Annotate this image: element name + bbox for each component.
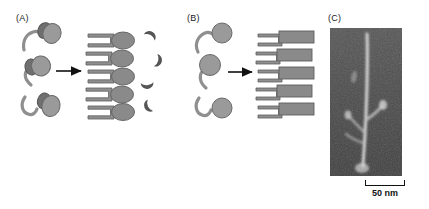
oval-head: [200, 55, 221, 76]
product-unit: [258, 31, 314, 46]
electron-micrograph-image: [330, 28, 402, 176]
reactant-molecule: [24, 55, 52, 85]
product-unit: [86, 86, 134, 103]
bracket-shape: [88, 34, 114, 47]
panel-b: (B): [178, 0, 318, 209]
molecule-tail: [22, 97, 37, 115]
reactant-molecule: [200, 55, 221, 89]
panel-a: (A): [0, 0, 178, 209]
rectangle-head: [279, 31, 314, 43]
crescent-shape: [143, 30, 156, 43]
rectangle-head: [279, 103, 314, 115]
product-unit: [88, 32, 135, 49]
oval-head: [212, 23, 232, 43]
product-assembly-a: [86, 32, 135, 121]
reactant-molecule-group-a: [22, 21, 64, 119]
crescent-shape: [140, 76, 155, 91]
micrograph-grain-overlay: [330, 28, 402, 176]
byproduct-crescent-group: [140, 30, 165, 113]
panel-c: (C): [318, 0, 429, 209]
reactant-molecule: [196, 23, 232, 52]
product-unit: [88, 104, 135, 121]
bracket-shape: [86, 52, 112, 65]
scale-bar: 50 nm: [355, 180, 415, 198]
micrograph-container: [330, 28, 402, 176]
bracket-shape: [258, 106, 282, 118]
rectangle-head: [277, 49, 312, 61]
scale-bar-label: 50 nm: [355, 188, 415, 198]
panel-c-label: (C): [328, 13, 341, 23]
crescent-shape: [150, 53, 165, 68]
oval-head: [112, 32, 135, 49]
bracket-shape: [88, 70, 114, 83]
product-unit: [88, 68, 135, 85]
panel-b-graphic: [178, 0, 318, 209]
reactant-molecule: [196, 98, 232, 118]
product-assembly-b: [256, 31, 314, 118]
bracket-shape: [256, 88, 280, 100]
bracket-shape: [256, 52, 280, 64]
oval-head: [212, 98, 232, 118]
oval-head: [111, 50, 134, 67]
product-unit: [258, 103, 314, 118]
bracket-shape: [258, 34, 282, 46]
reactant-molecule: [22, 92, 62, 119]
reactant-molecule-group-b: [196, 23, 232, 118]
panel-a-graphic: [0, 0, 178, 209]
crescent-shape: [142, 99, 156, 113]
figure-root: (A): [0, 0, 429, 209]
product-unit: [256, 49, 312, 64]
rectangle-head: [277, 85, 312, 97]
oval-head: [111, 86, 134, 103]
product-unit: [256, 85, 312, 100]
bracket-shape: [258, 70, 282, 82]
molecule-tail: [196, 98, 211, 116]
oval-head: [112, 104, 135, 121]
product-unit: [86, 50, 134, 67]
scale-bar-line: [365, 180, 405, 186]
oval-head: [112, 68, 135, 85]
reactant-molecule: [24, 21, 65, 50]
rectangle-head: [279, 67, 314, 79]
bracket-shape: [88, 106, 114, 119]
bracket-shape: [86, 88, 112, 101]
product-unit: [258, 67, 314, 82]
